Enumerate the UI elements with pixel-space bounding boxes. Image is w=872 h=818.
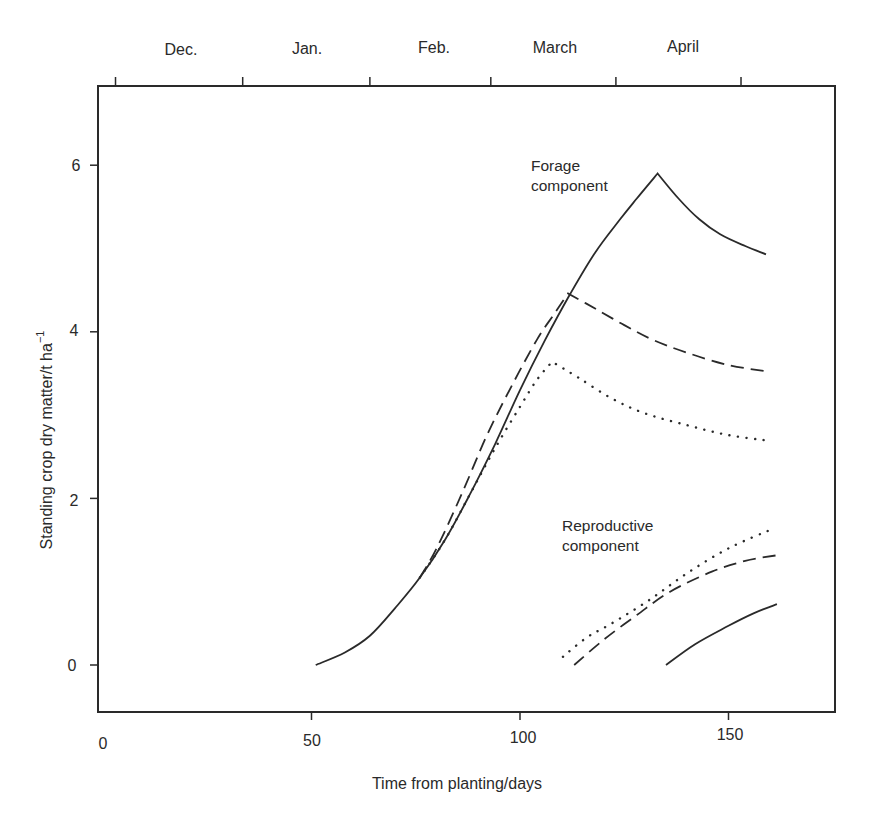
month-label-dec: Dec.: [165, 41, 198, 58]
y-tick-label-0: 0: [68, 657, 77, 674]
annotation-forage-line2: component: [531, 177, 608, 194]
annotation-forage: Forage component: [531, 157, 608, 194]
x-axis-ticks: [312, 712, 729, 720]
x-axis-title: Time from planting/days: [372, 775, 542, 792]
y-axis-title: Standing crop dry matter/t ha: [38, 343, 55, 549]
x-tick-label-100: 100: [510, 729, 537, 746]
svg-text:Standing crop dry matter/t ha−: Standing crop dry matter/t ha−1: [34, 331, 55, 550]
series-forage-solid: [316, 174, 766, 666]
y-tick-label-2: 2: [70, 492, 79, 509]
y-axis-title-group: Standing crop dry matter/t ha−1: [34, 331, 55, 550]
y-axis-tick-labels: 0 2 4 6: [68, 157, 81, 674]
series-reproductive-dashed: [574, 555, 778, 665]
series-reproductive-solid: [666, 604, 777, 665]
annotation-forage-line1: Forage: [531, 157, 580, 174]
month-label-feb: Feb.: [418, 39, 450, 56]
month-label-march: March: [533, 39, 577, 56]
plot-frame: [98, 86, 835, 712]
x-tick-label-0: 0: [99, 735, 108, 752]
series-forage-dashed: [420, 294, 770, 578]
month-label-april: April: [667, 38, 699, 55]
chart-figure: Dec. Jan. Feb. March April 0 2 4 6 0 50 …: [0, 0, 872, 818]
month-label-jan: Jan.: [292, 40, 322, 57]
annotation-reproductive-line1: Reproductive: [562, 517, 653, 534]
y-tick-label-4: 4: [70, 322, 79, 339]
annotation-reproductive-line2: component: [562, 537, 639, 554]
x-tick-label-50: 50: [303, 732, 321, 749]
x-tick-label-150: 150: [717, 726, 744, 743]
annotation-reproductive: Reproductive component: [562, 517, 653, 554]
top-axis-month-ticks: [116, 77, 742, 86]
top-axis-month-labels: Dec. Jan. Feb. March April: [165, 38, 699, 58]
y-axis-title-superscript: −1: [34, 331, 46, 344]
y-tick-label-6: 6: [72, 157, 81, 174]
series-layer: [316, 174, 779, 666]
x-axis-tick-labels: 0 50 100 150: [99, 726, 744, 752]
